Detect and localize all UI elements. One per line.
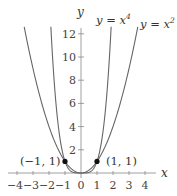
x-tick-label: −2 — [39, 179, 55, 192]
y-tick-label: 6 — [69, 97, 76, 110]
x-tick-label: 2 — [110, 179, 117, 192]
x-tick-label: −3 — [23, 179, 39, 192]
chart: −4−3−2−101234 24681012 y x y = x4 y = x2… — [0, 0, 177, 196]
x-axis-label: x — [161, 166, 168, 180]
point-label-left: (−1, 1) — [20, 154, 61, 168]
y-tick-label: 4 — [69, 121, 76, 134]
y-tick-label: 8 — [69, 74, 76, 87]
x-tick-label: 0 — [78, 179, 85, 192]
y-tick-label: 10 — [62, 51, 76, 64]
x-tick-label: 3 — [126, 179, 133, 192]
curve-label-x2: y = x2 — [139, 16, 175, 31]
x-tick-label: −4 — [7, 179, 23, 192]
x-tick-label: −1 — [55, 179, 71, 192]
y-tick-label: 2 — [69, 144, 76, 157]
x-tick-label: 1 — [94, 179, 101, 192]
y-axis-label: y — [76, 5, 84, 19]
y-tick-label: 12 — [62, 28, 76, 41]
x-ticks: −4−3−2−101234 — [7, 171, 149, 192]
point-1-1 — [94, 159, 99, 164]
point-label-right: (1, 1) — [106, 154, 137, 168]
point-neg1-1 — [62, 159, 67, 164]
x-tick-label: 4 — [142, 179, 149, 192]
curve-label-x4: y = x4 — [95, 12, 131, 27]
